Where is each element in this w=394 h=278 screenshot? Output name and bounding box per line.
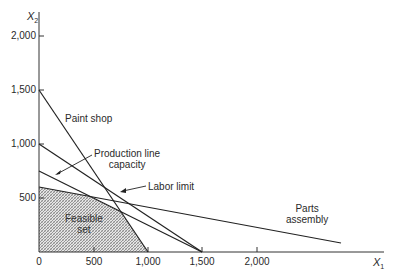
x-tick-0: 0 [19,256,59,267]
x-tick-1000: 1,000 [128,256,168,267]
y-tick-1000: 1,000 [4,138,36,149]
production-line-capacity-label: Production line capacity [94,148,160,170]
labor-limit-label: Labor limit [148,181,194,192]
linear-programming-chart: X2 X1 500 1,000 1,500 2,000 0 500 1,000 … [0,0,394,278]
y-axis-label: X2 [27,10,38,24]
x-axis-label: X1 [373,256,384,270]
x-tick-1500: 1,500 [182,256,222,267]
feasible-set-label: Feasible set [65,213,103,235]
parts-assembly-label: Parts assembly [286,203,328,225]
x-tick-2000: 2,000 [237,256,277,267]
x-tick-500: 500 [74,256,114,267]
y-tick-2000: 2,000 [4,30,36,41]
production-line-arrow [57,155,92,174]
labor-limit-arrow [123,186,146,191]
y-tick-500: 500 [4,192,36,203]
plot-area [0,0,394,278]
y-tick-1500: 1,500 [4,84,36,95]
paint-shop-label: Paint shop [65,113,112,124]
